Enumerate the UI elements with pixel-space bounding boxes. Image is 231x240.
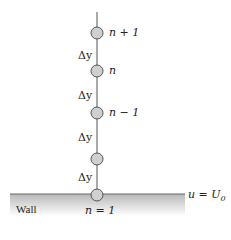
node-1 [91,189,103,201]
node-label-n-plus-1: n + 1 [109,27,139,38]
node-label-n-minus-1: n − 1 [109,107,139,118]
delta-y-label: Δy [78,172,92,183]
node-2 [91,153,103,165]
delta-y-label: Δy [78,50,92,61]
node-n-minus-1 [91,107,103,119]
node-label-n: n [109,65,116,76]
boundary-condition-text: u = U [188,188,221,201]
wall-label: Wall [16,204,37,215]
node-n [91,65,103,77]
delta-y-label: Δy [78,132,92,143]
node-n-plus-1 [91,27,103,39]
boundary-subscript: 0 [221,194,226,203]
delta-y-label: Δy [78,90,92,101]
boundary-condition: u = U0 [188,189,226,203]
node-label-n-equals-1: n = 1 [85,205,115,216]
